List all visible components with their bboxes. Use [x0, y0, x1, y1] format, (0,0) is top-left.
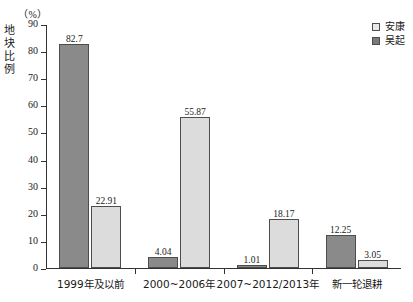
bar-ankang[interactable]: 22.91	[91, 206, 121, 268]
y-axis-tick-label: 60	[28, 99, 38, 110]
bar-value-label: 55.87	[184, 107, 205, 117]
y-axis-tick-label: 30	[28, 181, 38, 192]
y-axis-tick-label: 10	[28, 235, 38, 246]
y-axis-tick: 50	[41, 133, 46, 134]
y-axis-tick: 80	[41, 52, 46, 53]
x-axis-category-label: 新一轮退耕	[332, 276, 382, 291]
bar-wuqi[interactable]: 12.25	[326, 235, 356, 268]
x-axis-separator	[224, 269, 225, 274]
y-axis-title-char: 地	[2, 24, 16, 37]
x-axis-category-label: 2007~2012/2013年	[217, 276, 320, 291]
y-axis-tick-label: 20	[28, 208, 38, 219]
bar-value-label: 22.91	[96, 196, 117, 206]
x-axis-separator	[135, 269, 136, 274]
bar-value-label: 12.25	[330, 225, 351, 235]
bar-wuqi[interactable]: 4.04	[148, 257, 178, 268]
bar-value-label: 18.17	[273, 209, 294, 219]
x-axis-category-label: 1999年及以前	[57, 276, 124, 291]
y-axis-tick-label: 70	[28, 72, 38, 83]
y-axis-title-char: 比	[2, 50, 16, 63]
y-axis-tick-label: 40	[28, 154, 38, 165]
y-axis-tick-label: 50	[28, 126, 38, 137]
y-axis-tick: 0	[41, 269, 46, 270]
x-axis-category-label: 2000~2006年	[143, 276, 215, 291]
y-axis-title: 地 块 比 例	[2, 24, 16, 76]
y-axis-tick-label: 90	[28, 18, 38, 29]
y-axis-tick: 10	[41, 242, 46, 243]
y-axis-tick: 70	[41, 79, 46, 80]
y-axis-tick: 40	[41, 161, 46, 162]
bar-value-label: 3.05	[364, 250, 381, 260]
y-axis-tick: 60	[41, 106, 46, 107]
bar-chart: （%） 地 块 比 例 安康 吴起 0102030405060708090 82…	[0, 0, 413, 302]
y-axis-tick-label: 80	[28, 45, 38, 56]
y-axis-tick: 90	[41, 25, 46, 26]
plot-area: 0102030405060708090 82.722.914.0455.871.…	[46, 25, 401, 269]
y-axis-title-char: 例	[2, 63, 16, 76]
y-axis-tick: 20	[41, 215, 46, 216]
bar-value-label: 1.01	[244, 255, 261, 265]
bar-wuqi[interactable]: 1.01	[237, 265, 267, 268]
y-axis-tick: 30	[41, 188, 46, 189]
bar-value-label: 82.7	[66, 34, 83, 44]
y-axis-tick-label: 0	[33, 262, 38, 273]
y-axis-line	[46, 25, 47, 269]
x-axis-separator	[312, 269, 313, 274]
bar-wuqi[interactable]: 82.7	[59, 44, 89, 268]
bar-value-label: 4.04	[155, 247, 172, 257]
bar-ankang[interactable]: 3.05	[358, 260, 388, 268]
y-axis-title-char: 块	[2, 37, 16, 50]
bar-ankang[interactable]: 55.87	[180, 117, 210, 268]
bar-ankang[interactable]: 18.17	[269, 219, 299, 268]
